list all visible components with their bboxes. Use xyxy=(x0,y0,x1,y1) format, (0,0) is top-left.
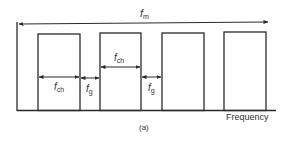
figure-caption: (a) xyxy=(139,123,149,132)
channel-width-label-1: fch xyxy=(54,81,64,93)
channel-4 xyxy=(224,32,266,111)
channel-2 xyxy=(100,33,141,111)
total-bandwidth-label: fm xyxy=(140,7,149,20)
frequency-axis-label: Frequency xyxy=(226,112,269,122)
channel-width-label-2: fch xyxy=(114,52,124,64)
diagram-canvas: fm fch fch fg fg Frequency (a) xyxy=(0,0,290,147)
guard-band-label-1: fg xyxy=(86,83,93,96)
total-bandwidth-arrow xyxy=(19,22,268,24)
channel-1 xyxy=(38,34,80,111)
channel-3 xyxy=(162,33,204,111)
guard-band-label-2: fg xyxy=(148,82,155,95)
frequency-division-diagram: fm fch fch fg fg Frequency (a) xyxy=(0,0,290,147)
